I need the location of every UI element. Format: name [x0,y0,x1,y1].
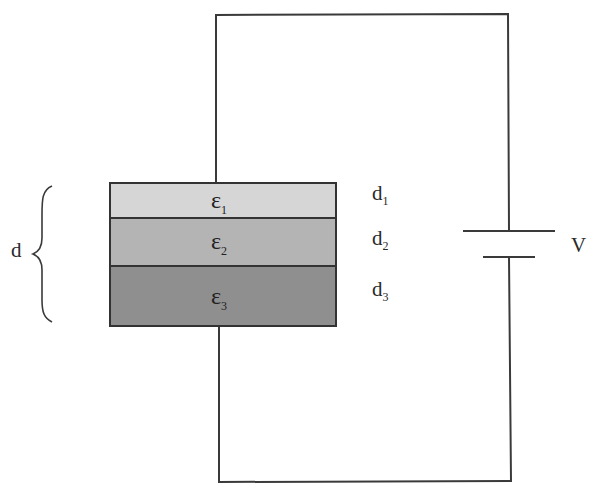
thickness-subscript: 1 [383,194,389,208]
voltage-label: V [571,235,586,256]
circuit-diagram [0,0,602,491]
epsilon-symbol: ε [211,187,221,213]
thickness-symbol: d [372,181,383,205]
layer-3-permittivity: ε3 [211,284,227,312]
epsilon-subscript: 1 [221,203,227,217]
layer-1-thickness: d1 [372,183,389,207]
epsilon-subscript: 3 [221,299,227,313]
epsilon-symbol: ε [211,228,221,254]
battery [463,231,555,257]
epsilon-symbol: ε [211,283,221,309]
layer-3-thickness: d3 [372,279,389,303]
thickness-symbol: d [372,226,383,250]
thickness-subscript: 2 [383,239,389,253]
epsilon-subscript: 2 [221,244,227,258]
layer-2-thickness: d2 [372,228,389,252]
thickness-brace [33,186,52,322]
layer-1-permittivity: ε1 [211,188,227,216]
thickness-symbol: d [372,277,383,301]
total-thickness-label: d [11,240,22,261]
thickness-subscript: 3 [383,290,389,304]
layer-2-permittivity: ε2 [211,229,227,257]
